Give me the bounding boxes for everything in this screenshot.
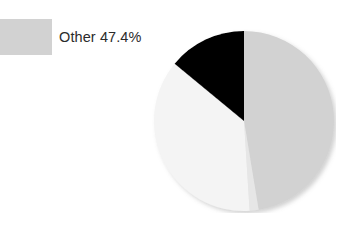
pie-chart — [152, 29, 336, 213]
pie-slice-other — [244, 31, 334, 210]
legend-item-label: Other 47.4% — [59, 29, 142, 45]
pie-slice-group — [154, 31, 334, 211]
pie-chart-figure: Other 47.4% — [0, 0, 353, 235]
pie-svg — [152, 29, 336, 213]
legend-swatch-icon — [0, 19, 52, 55]
chart-legend: Other 47.4% — [0, 19, 142, 55]
